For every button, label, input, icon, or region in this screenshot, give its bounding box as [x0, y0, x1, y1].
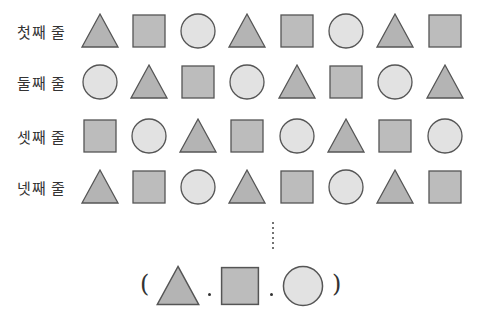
- row-label: 둘째 줄: [17, 72, 66, 93]
- triangle-icon: [178, 116, 218, 160]
- triangle-icon: [227, 167, 267, 211]
- square-icon: [217, 263, 263, 313]
- square-icon: [277, 11, 317, 55]
- triangle-icon: [326, 116, 366, 160]
- square-icon: [129, 11, 169, 55]
- circle-icon: [425, 116, 465, 160]
- triangle-icon: [155, 263, 201, 313]
- comma: [270, 293, 273, 296]
- square-icon: [425, 11, 465, 55]
- circle-icon: [280, 263, 326, 313]
- circle-icon: [227, 62, 267, 106]
- circle-icon: [178, 11, 218, 55]
- triangle-icon: [80, 167, 120, 211]
- circle-icon: [375, 62, 415, 106]
- square-icon: [227, 116, 267, 160]
- close-paren: ): [332, 270, 341, 298]
- triangle-icon: [80, 11, 120, 55]
- square-icon: [178, 62, 218, 106]
- square-icon: [425, 167, 465, 211]
- row-label: 셋째 줄: [17, 126, 66, 147]
- triangle-icon: [425, 62, 465, 106]
- row-label: 넷째 줄: [17, 177, 66, 198]
- comma: [208, 293, 211, 296]
- row-label: 첫째 줄: [17, 21, 66, 42]
- triangle-icon: [129, 62, 169, 106]
- triangle-icon: [375, 167, 415, 211]
- square-icon: [375, 116, 415, 160]
- square-icon: [277, 167, 317, 211]
- triangle-icon: [227, 11, 267, 55]
- circle-icon: [326, 167, 366, 211]
- circle-icon: [80, 62, 120, 106]
- triangle-icon: [277, 62, 317, 106]
- continuation-dots: [272, 222, 276, 252]
- square-icon: [129, 167, 169, 211]
- circle-icon: [178, 167, 218, 211]
- circle-icon: [129, 116, 169, 160]
- square-icon: [80, 116, 120, 160]
- circle-icon: [326, 11, 366, 55]
- square-icon: [326, 62, 366, 106]
- triangle-icon: [375, 11, 415, 55]
- circle-icon: [277, 116, 317, 160]
- open-paren: (: [140, 270, 149, 298]
